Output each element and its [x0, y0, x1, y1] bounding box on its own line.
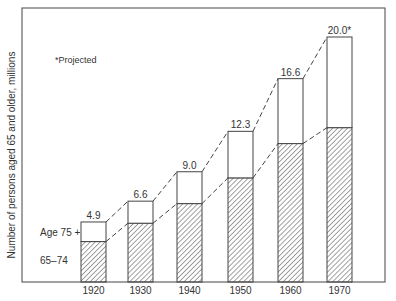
segment-65-74	[177, 204, 202, 282]
x-tick-label: 1940	[178, 285, 201, 296]
x-axis-ticks: 192019301940195019601970	[82, 285, 351, 296]
dashed-line-total	[106, 201, 128, 222]
legend-label-65-74: 65–74	[40, 255, 68, 266]
segment-65-74	[128, 223, 153, 282]
bar-1930	[128, 201, 153, 282]
dashed-line-65-74	[253, 144, 278, 178]
dashed-line-total	[153, 172, 177, 201]
dashed-line-total	[303, 37, 327, 79]
x-tick-label: 1960	[279, 285, 302, 296]
y-axis-label: Number of persons aged 65 and older, mil…	[6, 52, 17, 259]
bar-1920	[81, 222, 106, 282]
segment-75-plus	[81, 222, 106, 242]
bar-1940	[177, 172, 202, 282]
total-value-label: 20.0*	[328, 25, 351, 36]
dashed-line-total	[202, 131, 228, 171]
segment-65-74	[228, 178, 253, 282]
segment-65-74	[327, 128, 352, 282]
legend-label-75-plus: Age 75 +	[40, 227, 80, 238]
segment-65-74	[278, 144, 303, 282]
dashed-line-65-74	[202, 178, 228, 204]
bars-group	[81, 37, 352, 282]
stacked-bar-chart: Number of persons aged 65 and older, mil…	[0, 0, 396, 301]
x-tick-label: 1970	[328, 285, 351, 296]
segment-65-74	[81, 242, 106, 282]
segment-75-plus	[228, 131, 253, 178]
segment-75-plus	[278, 79, 303, 144]
segment-75-plus	[177, 172, 202, 204]
x-tick-label: 1930	[129, 285, 152, 296]
bar-1950	[228, 131, 253, 282]
bar-1960	[278, 79, 303, 282]
x-tick-label: 1920	[82, 285, 105, 296]
dashed-line-total	[253, 79, 278, 132]
x-tick-label: 1950	[229, 285, 252, 296]
dashed-line-65-74	[153, 204, 177, 224]
total-value-label: 9.0	[183, 160, 197, 171]
footnote-projected: *Projected	[55, 55, 97, 65]
total-value-label: 6.6	[134, 189, 148, 200]
segment-75-plus	[128, 201, 153, 223]
total-value-label: 12.3	[231, 119, 251, 130]
dashed-line-65-74	[106, 223, 128, 241]
total-value-label: 16.6	[281, 67, 301, 78]
total-value-label: 4.9	[87, 210, 101, 221]
bar-total-labels: 4.96.69.012.316.620.0*	[87, 25, 352, 221]
dashed-line-65-74	[303, 128, 327, 144]
bar-1970	[327, 37, 352, 282]
segment-75-plus	[327, 37, 352, 128]
